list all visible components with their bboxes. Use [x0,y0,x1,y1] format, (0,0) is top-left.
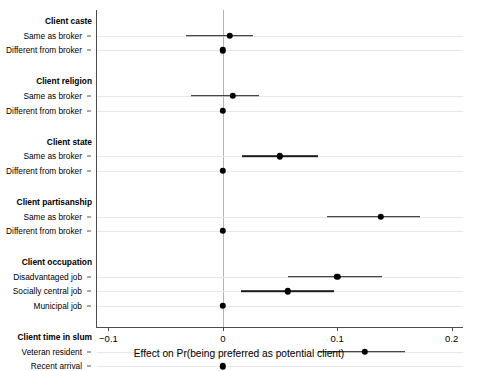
y-axis-tick [87,110,91,111]
confidence-interval-bar [191,95,260,97]
group-header-client-time-in-slum: Client time in slum [18,332,92,342]
point-estimate [220,107,226,113]
gridline [97,366,463,367]
row-label: Same as broker [23,91,82,101]
gridline [97,36,463,37]
row-label: Same as broker [23,31,82,41]
x-axis-tick-label: 0.2 [445,333,458,344]
confidence-interval-bar [186,35,252,37]
point-estimate [220,303,226,309]
group-header-client-religion: Client religion [36,76,92,86]
y-axis-tick [87,366,91,367]
y-axis-tick [87,156,91,157]
x-axis-tick [223,327,224,331]
y-axis-line [96,10,97,328]
x-axis-tick-label: 0.1 [331,333,344,344]
gridline [97,96,463,97]
y-axis-tick [87,306,91,307]
row-label: Different from broker [6,106,82,116]
gridline [97,111,463,112]
row-label: Different from broker [6,226,82,236]
y-axis-tick [87,291,91,292]
point-estimate [226,32,232,38]
y-axis-tick [87,95,91,96]
point-estimate [334,274,340,280]
point-estimate [220,168,226,174]
x-axis-tick [337,327,338,331]
point-estimate [230,93,236,99]
x-axis-tick [452,327,453,331]
group-header-client-partisanship: Client partisanship [17,197,92,207]
group-header-client-state: Client state [47,137,92,147]
gridline [97,306,463,307]
point-estimate [220,363,226,369]
y-axis-tick [87,35,91,36]
point-estimate [220,47,226,53]
x-axis-line [97,327,463,328]
group-header-client-occupation: Client occupation [22,257,92,267]
y-axis-tick [87,170,91,171]
y-axis-tick [87,50,91,51]
row-label: Different from broker [6,45,82,55]
y-axis-tick [87,276,91,277]
row-label: Different from broker [6,166,82,176]
x-axis-tick [108,327,109,331]
row-label: Same as broker [23,151,82,161]
point-estimate [277,153,283,159]
row-label: Same as broker [23,212,82,222]
row-label: Recent arrival [31,361,82,371]
y-axis-tick [87,216,91,217]
y-axis-tick [87,231,91,232]
point-estimate [377,213,383,219]
gridline [97,231,463,232]
x-axis-tick-label: 0 [220,333,225,344]
row-label: Disadvantaged job [13,272,82,282]
point-estimate [220,228,226,234]
point-estimate [285,288,291,294]
gridline [97,277,463,278]
gridline [97,50,463,51]
x-axis-tick-label: −0.1 [99,333,118,344]
confidence-interval-bar [327,216,420,218]
row-label-column: Client casteSame as brokerDifferent from… [0,10,92,327]
plot-panel [97,10,463,327]
row-label: Municipal job [34,301,82,311]
group-header-client-caste: Client caste [45,16,92,26]
x-axis-title: Effect on Pr(being preferred as potentia… [0,348,478,359]
row-label: Socially central job [13,286,82,296]
gridline [97,171,463,172]
